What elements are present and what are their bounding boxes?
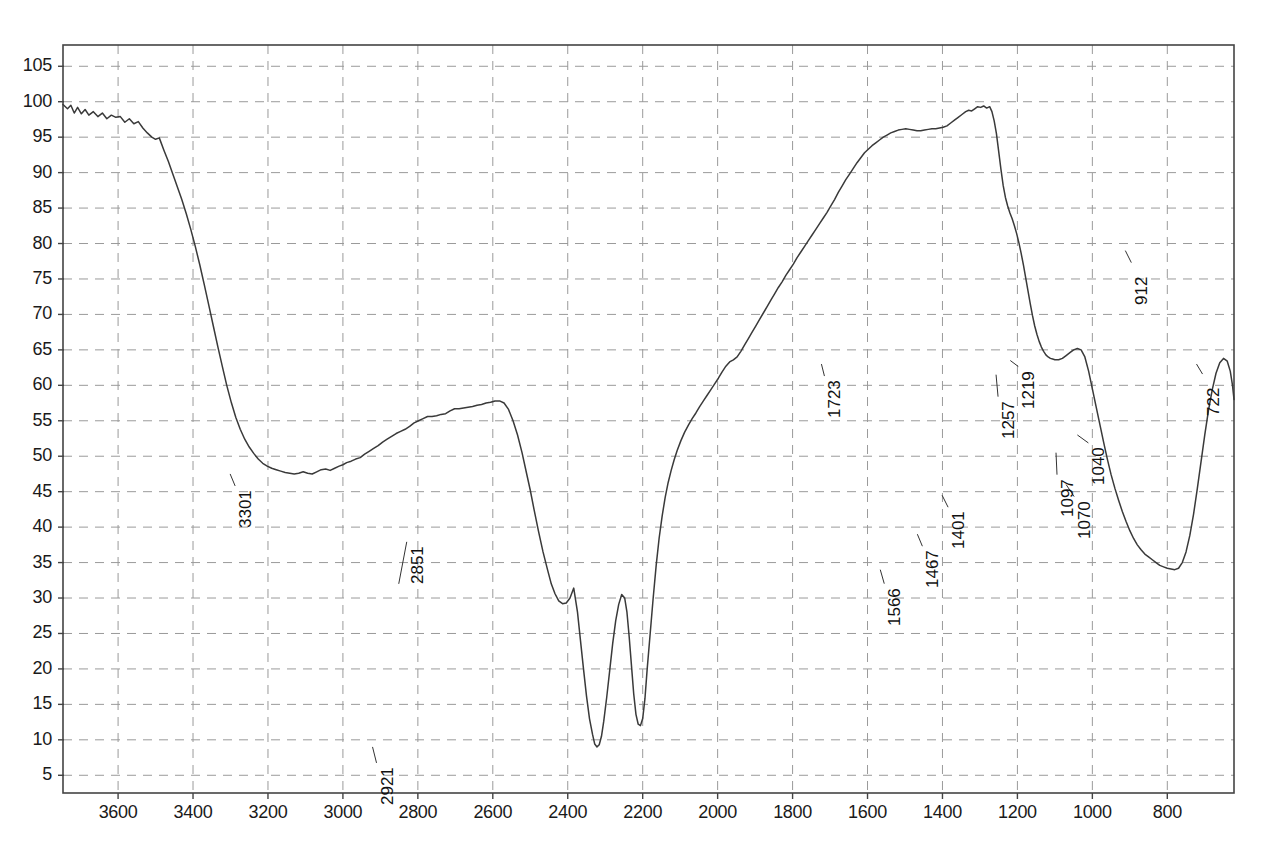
peak-label-3301: 3301 xyxy=(236,490,256,528)
y-tick-label: 5 xyxy=(8,764,52,785)
y-tick-label: 40 xyxy=(8,516,52,537)
y-tick-label: 10 xyxy=(8,729,52,750)
peak-label-2851: 2851 xyxy=(408,546,428,584)
peak-label-1040: 1040 xyxy=(1089,447,1109,485)
peak-label-2921: 2921 xyxy=(378,767,398,805)
x-tick-label: 2600 xyxy=(458,802,528,823)
y-tick-label: 100 xyxy=(8,91,52,112)
y-tick-label: 90 xyxy=(8,162,52,183)
x-tick-label: 2000 xyxy=(683,802,753,823)
x-tick-label: 1000 xyxy=(1057,802,1127,823)
annotation-leaders xyxy=(230,251,1202,763)
peak-label-1467: 1467 xyxy=(923,550,943,588)
peak-label-1723: 1723 xyxy=(825,380,845,418)
x-tick-label: 3000 xyxy=(308,802,378,823)
y-tick-label: 60 xyxy=(8,374,52,395)
x-tick-label: 1200 xyxy=(982,802,1052,823)
y-tick-label: 20 xyxy=(8,658,52,679)
y-tick-label: 70 xyxy=(8,303,52,324)
peak-label-1566: 1566 xyxy=(885,588,905,626)
ir-spectrum-figure: 1051009590858075706560555045403530252015… xyxy=(0,0,1263,843)
x-tick-label: 2200 xyxy=(608,802,678,823)
x-tick-label: 1400 xyxy=(907,802,977,823)
y-tick-label: 105 xyxy=(8,55,52,76)
y-tick-label: 75 xyxy=(8,268,52,289)
plot-frame xyxy=(63,45,1234,793)
y-tick-label: 50 xyxy=(8,445,52,466)
y-tick-label: 65 xyxy=(8,339,52,360)
x-tick-label: 2400 xyxy=(533,802,603,823)
x-tick-label: 3200 xyxy=(233,802,303,823)
x-tick-label: 3600 xyxy=(83,802,153,823)
gridlines xyxy=(63,45,1234,793)
peak-label-1257: 1257 xyxy=(999,401,1019,439)
peak-label-722: 722 xyxy=(1204,388,1224,416)
y-tick-label: 25 xyxy=(8,622,52,643)
x-tick-label: 3400 xyxy=(158,802,228,823)
peak-label-912: 912 xyxy=(1132,276,1152,304)
y-tick-label: 15 xyxy=(8,693,52,714)
x-tick-label: 1600 xyxy=(833,802,903,823)
y-tick-label: 95 xyxy=(8,126,52,147)
peak-label-1219: 1219 xyxy=(1019,371,1039,409)
y-tick-label: 55 xyxy=(8,410,52,431)
peak-label-1070: 1070 xyxy=(1075,501,1095,539)
y-tick-label: 35 xyxy=(8,552,52,573)
spectrum-curve xyxy=(63,105,1234,747)
x-tick-label: 2800 xyxy=(383,802,453,823)
y-tick-label: 30 xyxy=(8,587,52,608)
y-tick-label: 85 xyxy=(8,197,52,218)
y-tick-label: 80 xyxy=(8,233,52,254)
spectrum-plot xyxy=(0,0,1263,843)
x-tick-label: 800 xyxy=(1132,802,1202,823)
x-tick-label: 1800 xyxy=(758,802,828,823)
y-tick-label: 45 xyxy=(8,481,52,502)
peak-label-1401: 1401 xyxy=(949,511,969,549)
